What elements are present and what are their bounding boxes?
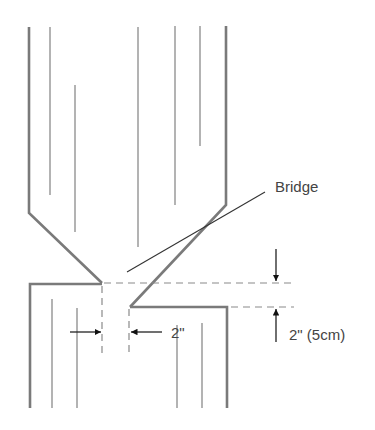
vertical-dimension-label: 2" (5cm) <box>289 326 345 343</box>
upper-board <box>29 26 226 307</box>
upper-board-left-edge <box>29 27 102 283</box>
lower-left-board <box>30 284 102 408</box>
bridge-leader-line <box>127 192 265 272</box>
bridge-label: Bridge <box>275 178 318 195</box>
upper-board-right-edge <box>130 26 226 307</box>
upper-board-grain <box>50 26 200 247</box>
horizontal-dimension-label: 2" <box>171 324 185 341</box>
lower-right-board <box>130 307 227 408</box>
dimension-guides <box>102 283 294 354</box>
bridge-joint-diagram: Bridge 2" 2" (5cm) <box>0 0 375 430</box>
